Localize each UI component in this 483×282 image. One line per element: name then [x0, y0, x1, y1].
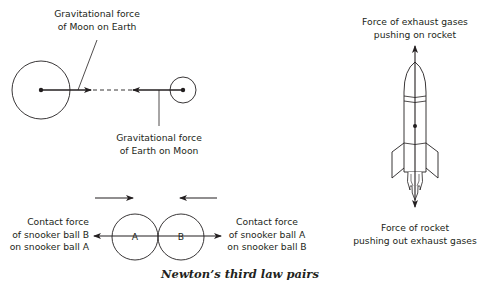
rocket-group [392, 46, 438, 207]
label-line: Gravitational force [114, 132, 204, 145]
label-line: of snooker ball B [0, 229, 89, 242]
label-line: of Earth on Moon [114, 145, 204, 158]
label-gravity-earth-on-moon: Gravitational force of Earth on Moon [114, 132, 204, 157]
ball-a-label: A [127, 231, 143, 244]
label-gravity-moon-on-earth: Gravitational force of Moon on Earth [52, 8, 142, 33]
rocket-right-fin [426, 143, 438, 178]
label-contact-b-on-a: Contact force of snooker ball B on snook… [0, 216, 89, 254]
figure-caption: Newton’s third law pairs [160, 267, 320, 281]
rocket-center-dot [413, 124, 417, 128]
label-line: Contact force [0, 216, 89, 229]
label-line: on snooker ball B [226, 241, 308, 254]
label-line: pushing on rocket [355, 29, 475, 42]
label-line: of Moon on Earth [52, 21, 142, 34]
label-line: of snooker ball A [226, 229, 308, 242]
ball-b-label: B [173, 231, 189, 244]
label-gases-on-rocket: Force of exhaust gases pushing on rocket [355, 16, 475, 41]
leader-line-moon-on-earth [78, 40, 97, 90]
label-line: Force of exhaust gases [355, 16, 475, 29]
rocket-left-fin [392, 143, 404, 178]
label-line: pushing out exhaust gases [350, 235, 480, 248]
label-line: Gravitational force [52, 8, 142, 21]
label-line: Contact force [226, 216, 308, 229]
snooker-group [94, 198, 221, 260]
label-line: Force of rocket [350, 222, 480, 235]
label-contact-a-on-b: Contact force of snooker ball A on snook… [226, 216, 308, 254]
label-line: on snooker ball A [0, 241, 89, 254]
label-rocket-on-gases: Force of rocket pushing out exhaust gase… [350, 222, 480, 247]
earth-moon-group [12, 40, 196, 126]
